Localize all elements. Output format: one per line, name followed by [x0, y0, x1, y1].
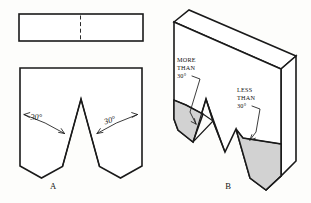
callout-right-line3: 30°	[237, 102, 247, 109]
figure-root: 30° 30° A	[0, 0, 311, 203]
callout-right-line1: LESS	[237, 86, 253, 93]
view-a-label: A	[50, 181, 57, 191]
callout-right-line2: THAN	[237, 94, 255, 101]
view-a-front-view: 30° 30° A	[20, 68, 142, 191]
view-b-label: B	[225, 181, 231, 191]
front-view-body-outline	[20, 68, 142, 178]
block-right-end-face	[281, 56, 296, 176]
callout-left-line2: THAN	[177, 64, 195, 71]
view-a-top-view	[19, 14, 143, 41]
callout-left-line1: MORE	[177, 56, 196, 63]
view-b-isometric: MORE THAN 30° LESS THAN 30° B	[174, 10, 296, 191]
callout-left-line3: 30°	[177, 72, 187, 79]
technical-illustration: 30° 30° A	[0, 0, 311, 203]
angle-left-label: 30°	[30, 113, 43, 122]
